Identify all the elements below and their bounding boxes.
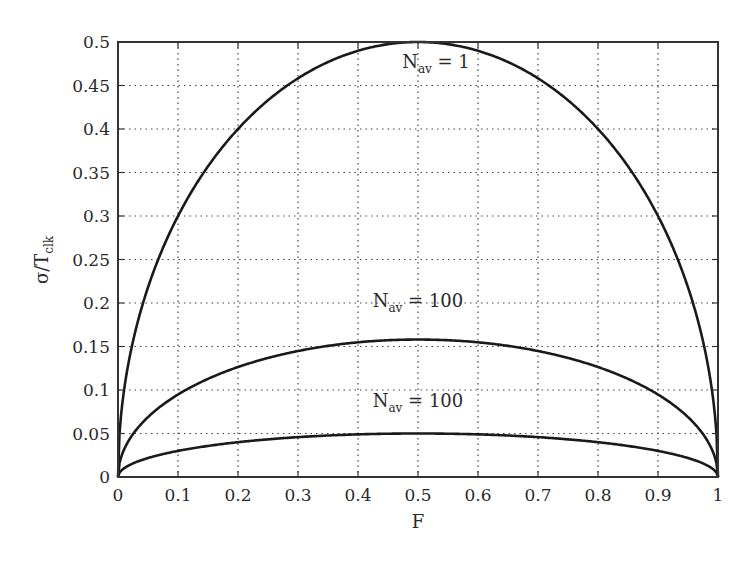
y-tick-label: 0.3 [83,206,110,226]
y-tick-label: 0 [99,467,110,487]
y-tick-label: 0.35 [72,163,110,183]
y-tick-label: 0.45 [72,76,110,96]
y-tick-label: 0.5 [83,32,110,52]
y-tick-labels: 00.050.10.150.20.250.30.350.40.450.5 [72,32,110,487]
grid-lines [118,42,718,477]
x-tick-label: 0.6 [464,485,491,505]
curve-label: Nav = 1 [402,51,470,76]
chart: 00.10.20.30.40.50.60.70.80.91 00.050.10.… [0,0,756,564]
y-tick-label: 0.1 [83,380,110,400]
x-tick-label: 0.1 [164,485,191,505]
x-tick-label: 0.3 [284,485,311,505]
x-tick-label: 0.8 [584,485,611,505]
y-axis-label: σ/Tclk [31,235,56,284]
y-tick-label: 0.2 [83,293,110,313]
curve-annotations: Nav = 1Nav = 100Nav = 100 [373,51,470,415]
y-tick-label: 0.4 [83,119,110,139]
x-tick-label: 0.4 [344,485,371,505]
y-tick-label: 0.25 [72,250,110,270]
x-tick-label: 0.2 [224,485,251,505]
x-tick-labels: 00.10.20.30.40.50.60.70.80.91 [113,485,724,505]
x-tick-label: 1 [713,485,724,505]
x-axis-label: F [412,511,425,532]
x-tick-label: 0 [113,485,124,505]
x-tick-label: 0.5 [404,485,431,505]
x-tick-label: 0.9 [644,485,671,505]
y-tick-label: 0.15 [72,337,110,357]
y-tick-label: 0.05 [72,424,110,444]
x-tick-label: 0.7 [524,485,551,505]
